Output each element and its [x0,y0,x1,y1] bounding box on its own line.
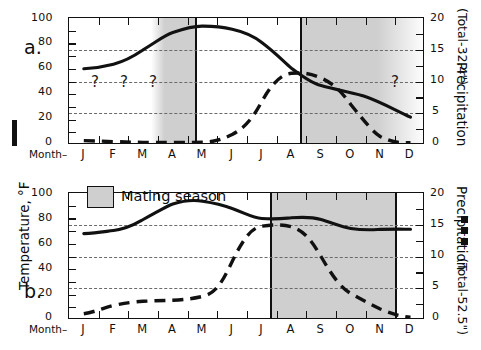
panel-b-y2tick-mark [416,257,423,258]
panel-b-xtick [188,311,189,318]
panel-a-y2tick-5: 5 [432,104,439,117]
panel-b-xtick [306,311,307,318]
panel-a-month-label: M [127,147,157,161]
panel-a-question-mark: ? [120,73,128,91]
panel-a-ytick-mark [69,107,76,108]
panel-b-ytick-mark [69,282,76,283]
panel-b-y2tick-mark [416,225,423,226]
panel-a-xtick [336,18,337,25]
panel-a-ytick-100: 100 [31,11,53,24]
panel-a-xtick [217,18,218,25]
panel-a-xtick [188,136,189,143]
panel-b-ytick-40: 40 [38,261,52,274]
precipitation-line-key [461,216,468,223]
panel-a-xtick [99,136,100,143]
panel-b-y2tick-mark [416,272,423,273]
panel-b-month-label: N [365,322,395,336]
panel-b-ytick-mark [69,269,76,270]
panel-b-month-label: A [276,322,306,336]
mating-season-legend-swatch [87,186,114,208]
panel-b-ytick-60: 60 [38,236,52,249]
panel-b-month-label: S [305,322,335,336]
panel-a-xtick [306,136,307,143]
panel-b-xtick [217,311,218,318]
panel-a-month-label: J [246,147,276,161]
panel-b-xtick [99,311,100,318]
panel-b-y2tick-mark [416,288,423,289]
panel-a-month-label: D [394,147,424,161]
panel-b-ytick-mark [69,206,76,207]
panel-b-xtick [336,311,337,318]
panel-a-temperature-curve [84,26,411,117]
panel-a-xtick [99,18,100,25]
panel-b-ytick-100: 100 [31,186,53,199]
panel-a-xtick [395,136,396,143]
panel-a-xtick [128,136,129,143]
panel-b-y2tick-5: 5 [432,279,439,292]
panel-a-xtick [128,18,129,25]
panel-b-plot-area [68,192,424,319]
mating-season-legend-label: Mating season [121,188,226,204]
panel-b-ytick-mark [69,231,76,232]
panel-b-month-label: D [394,322,424,336]
panel-b-ytick-mark [69,218,76,219]
panel-b-y2tick-mark [416,241,423,242]
panel-b-xtick [247,311,248,318]
panel-a-month-prefix: Month– [29,148,67,160]
panel-a-month-label: O [335,147,365,161]
panel-a-y2tick-15: 15 [430,42,444,55]
panel-a-y2tick-mark [416,129,423,130]
panel-b-y2tick-20: 20 [430,186,444,199]
panel-a-xtick [277,18,278,25]
panel-a-ytick-mark [69,82,76,83]
panel-a-precipitation-curve [84,73,411,143]
panel-a-xtick [366,136,367,143]
panel-a-y2tick-20: 20 [430,11,444,24]
panel-a-y2tick-mark [416,97,423,98]
panel-a-xtick [336,136,337,143]
panel-b-xtick [277,193,278,200]
panel-b-ytick-0: 0 [45,310,52,323]
panel-b-y2tick-0: 0 [432,310,439,323]
panel-a-month-label: A [157,147,187,161]
precipitation-line-key [461,238,468,245]
panel-a-ytick-mark [69,56,76,57]
panel-a-ytick-20: 20 [38,110,52,123]
panel-a-xtick [188,18,189,25]
precipitation-line-key [461,227,468,234]
left-axis-title: Temperature, °F [16,181,32,290]
panel-a-xtick [158,18,159,25]
panel-b-xtick [158,311,159,318]
panel-a-ytick-mark [69,94,76,95]
panel-b-xtick [247,193,248,200]
panel-a-xtick [306,18,307,25]
panel-a-y2tick-mark [416,66,423,67]
panel-a-plot-area: ? ? ? ? [68,17,424,144]
panel-a-ytick-mark [69,120,76,121]
panel-a-ytick-mark [69,132,76,133]
panel-a-y2tick-mark [416,82,423,83]
panel-a-month-label: F [98,147,128,161]
panel-a-ytick-mark [69,69,76,70]
temperature-line-key [12,120,17,146]
panel-b-y2tick-10: 10 [430,248,444,261]
panel-a-month-label: N [365,147,395,161]
right-axis-total-a: (Total-32.4") [455,8,470,85]
panel-b-ytick-mark [69,307,76,308]
panel-b-xtick [306,193,307,200]
panel-b-month-label: J [246,322,276,336]
panel-b-xtick [366,193,367,200]
panel-b-xtick [277,311,278,318]
panel-b-month-label: J [216,322,246,336]
panel-a-ytick-mark [69,31,76,32]
panel-b-xtick [366,311,367,318]
panel-a-xtick [277,136,278,143]
panel-a-xtick [395,18,396,25]
panel-b-month-label: F [98,322,128,336]
panel-b-temperature-curve [84,200,411,233]
panel-b-month-label: M [127,322,157,336]
panel-a-month-label: J [216,147,246,161]
panel-b-ytick-mark [69,295,76,296]
panel-b-curves [69,193,424,319]
panel-b-xtick [395,311,396,318]
